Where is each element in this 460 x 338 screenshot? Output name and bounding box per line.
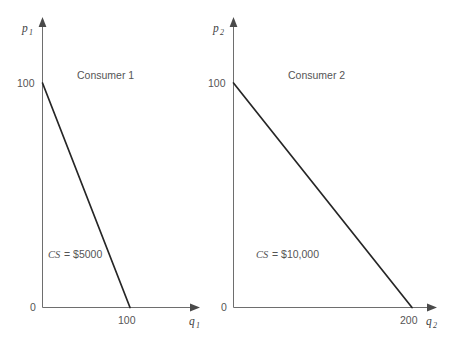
y-tick-label-1: 100 — [17, 77, 35, 89]
y-axis-label-subscript-2: 2 — [220, 28, 224, 37]
x-axis-label-2: q — [426, 315, 432, 328]
x-axis-label-1: q — [189, 315, 195, 328]
panel-consumer-1: p 1 q 1 100 0 100 Consumer 1 CS = $5000 — [17, 17, 200, 330]
demand-curve-1 — [43, 83, 131, 308]
origin-label-2: 0 — [221, 301, 227, 313]
y-axis-label-1: p — [21, 22, 28, 35]
cs-annotation-value-2: = $10,000 — [272, 248, 319, 260]
x-tick-label-2: 200 — [400, 314, 418, 326]
x-axis-label-subscript-2: 2 — [433, 321, 437, 330]
x-axis-label-subscript-1: 1 — [196, 321, 200, 330]
cs-annotation-symbol-1: CS — [48, 249, 61, 260]
y-axis-label-subscript-1: 1 — [29, 28, 33, 37]
y-axis-arrow-icon-1 — [39, 17, 47, 27]
economics-figure: p 1 q 1 100 0 100 Consumer 1 CS = $5000 — [0, 0, 460, 338]
x-axis-arrow-icon-2 — [427, 304, 437, 312]
cs-annotation-symbol-2: CS — [256, 249, 269, 260]
panel-consumer-2: p 2 q 2 100 0 200 Consumer 2 CS = $10,00… — [208, 17, 437, 330]
origin-label-1: 0 — [30, 301, 36, 313]
y-axis-label-2: p — [212, 22, 219, 35]
x-axis-arrow-icon-1 — [190, 304, 200, 312]
x-tick-label-1: 100 — [118, 314, 136, 326]
demand-curve-2 — [234, 83, 413, 308]
panel-title-2: Consumer 2 — [288, 69, 345, 81]
y-axis-arrow-icon-2 — [230, 17, 238, 27]
panel-title-1: Consumer 1 — [77, 69, 134, 81]
y-tick-label-2: 100 — [208, 77, 226, 89]
cs-annotation-value-1: = $5000 — [64, 248, 102, 260]
